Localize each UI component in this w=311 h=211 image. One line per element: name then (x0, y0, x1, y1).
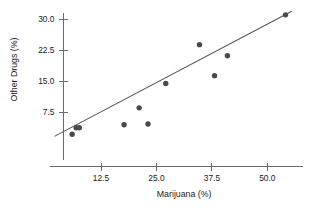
x-axis-title: Marijuana (%) (157, 189, 212, 199)
data-point (163, 81, 168, 86)
data-point (69, 132, 74, 137)
x-axis-tick-label: 37.5 (204, 173, 221, 183)
y-axis-tick-label: 7.5 (43, 107, 55, 117)
plot-canvas: 12.525.037.550.07.515.022.530.0Marijuana… (0, 0, 311, 211)
data-point (145, 121, 150, 126)
data-point (197, 42, 202, 47)
regression-line (54, 11, 291, 136)
axis-labels-group: 12.525.037.550.07.515.022.530.0Marijuana… (9, 14, 276, 199)
data-point (77, 125, 82, 130)
y-axis-tick-label: 22.5 (38, 45, 55, 55)
data-point (212, 73, 217, 78)
regression-line-group (54, 11, 291, 136)
y-axis-tick-label: 15.0 (38, 76, 55, 86)
x-axis-tick-label: 50.0 (259, 173, 276, 183)
data-point (283, 12, 288, 17)
x-axis-tick-label: 12.5 (93, 173, 110, 183)
data-point (225, 53, 230, 58)
y-axis-tick-label: 30.0 (38, 14, 55, 24)
x-axis-tick-label: 25.0 (148, 173, 165, 183)
data-point (121, 122, 126, 127)
axes-group (50, 13, 303, 171)
data-point (136, 105, 141, 110)
scatter-plot-figure: 12.525.037.550.07.515.022.530.0Marijuana… (0, 0, 311, 211)
y-axis-title: Other Drugs (%) (9, 37, 19, 101)
